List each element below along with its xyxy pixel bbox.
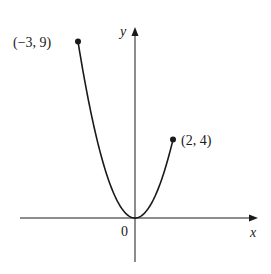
x-axis-label: x	[249, 225, 257, 240]
parabola-chart: (−3, 9) (2, 4) y x 0	[0, 0, 271, 274]
endpoint-left	[75, 39, 81, 45]
x-axis-arrow-icon	[249, 215, 258, 222]
point-left-label: (−3, 9)	[13, 35, 52, 51]
y-axis-arrow-icon	[132, 27, 139, 36]
y-axis-label: y	[118, 24, 127, 39]
origin-label: 0	[121, 224, 128, 239]
endpoint-right	[170, 137, 176, 143]
parabola-curve	[78, 42, 173, 218]
point-right-label: (2, 4)	[181, 133, 212, 149]
